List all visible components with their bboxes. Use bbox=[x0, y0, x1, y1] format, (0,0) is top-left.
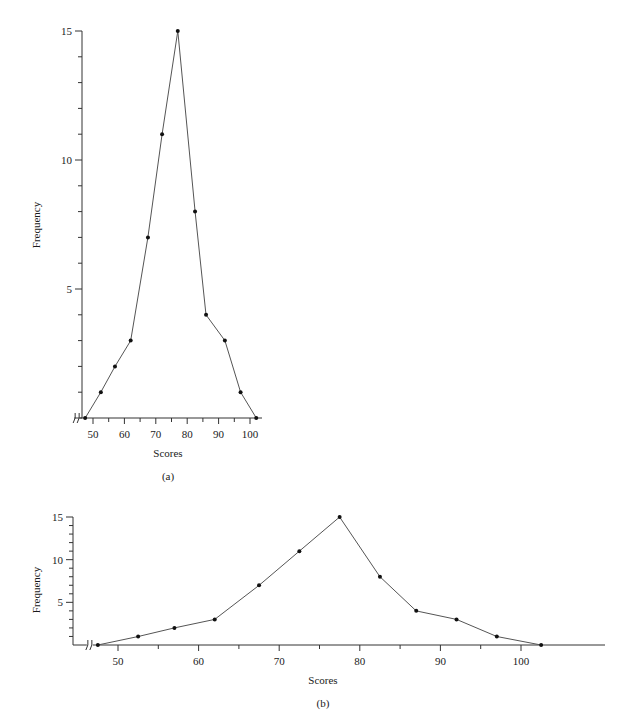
data-point-marker bbox=[136, 634, 140, 638]
data-point-marker bbox=[146, 235, 150, 239]
data-point-marker bbox=[83, 416, 87, 420]
chart-b-y-axis-title: Frequency bbox=[30, 566, 42, 613]
x-tick-label: 90 bbox=[213, 428, 225, 440]
x-tick-label: 90 bbox=[435, 655, 447, 667]
x-tick-label: 100 bbox=[242, 428, 259, 440]
x-tick-label: 50 bbox=[113, 655, 125, 667]
chart-b-series bbox=[96, 515, 543, 647]
data-point-marker bbox=[129, 339, 133, 343]
frequency-line bbox=[98, 517, 541, 645]
chart-b-caption: (b) bbox=[317, 697, 330, 710]
data-point-marker bbox=[378, 575, 382, 579]
data-point-marker bbox=[113, 364, 117, 368]
data-point-marker bbox=[297, 549, 301, 553]
y-tick-label: 15 bbox=[61, 25, 73, 37]
data-point-marker bbox=[239, 390, 243, 394]
frequency-polygon-chart-a: 51015 5060708090100 Frequency Scores (a)… bbox=[0, 0, 632, 717]
chart-a-y-axis-title: Frequency bbox=[30, 201, 42, 248]
x-tick-label: 80 bbox=[354, 655, 366, 667]
x-tick-label: 60 bbox=[193, 655, 205, 667]
x-tick-label: 70 bbox=[150, 428, 162, 440]
x-tick-label: 60 bbox=[119, 428, 131, 440]
data-point-marker bbox=[455, 617, 459, 621]
data-point-marker bbox=[338, 515, 342, 519]
y-tick-label: 5 bbox=[58, 596, 64, 608]
chart-b-y-axis: 51015 bbox=[52, 511, 73, 645]
y-tick-label: 10 bbox=[61, 154, 73, 166]
data-point-marker bbox=[213, 617, 217, 621]
data-point-marker bbox=[204, 313, 208, 317]
data-point-marker bbox=[414, 609, 418, 613]
data-point-marker bbox=[176, 29, 180, 33]
x-tick-label: 50 bbox=[88, 428, 100, 440]
data-point-marker bbox=[257, 583, 261, 587]
x-tick-label: 100 bbox=[513, 655, 530, 667]
data-point-marker bbox=[223, 339, 227, 343]
data-point-marker bbox=[539, 643, 543, 647]
chart-a-series bbox=[83, 29, 258, 420]
chart-b-x-axis-title: Scores bbox=[308, 674, 337, 686]
frequency-line bbox=[85, 31, 256, 418]
y-tick-label: 5 bbox=[67, 283, 73, 295]
data-point-marker bbox=[193, 210, 197, 214]
data-point-marker bbox=[99, 390, 103, 394]
chart-b-x-axis: 5060708090100 bbox=[73, 640, 605, 667]
data-point-marker bbox=[172, 626, 176, 630]
chart-a-caption: (a) bbox=[162, 470, 175, 483]
chart-a-x-axis: 5060708090100 bbox=[73, 413, 262, 440]
x-tick-label: 70 bbox=[274, 655, 286, 667]
data-point-marker bbox=[96, 643, 100, 647]
data-point-marker bbox=[160, 132, 164, 136]
x-tick-label: 80 bbox=[182, 428, 194, 440]
y-tick-label: 15 bbox=[52, 511, 64, 523]
data-point-marker bbox=[254, 416, 258, 420]
chart-a-x-axis-title: Scores bbox=[153, 447, 182, 459]
data-point-marker bbox=[495, 634, 499, 638]
chart-a-y-axis: 51015 bbox=[61, 25, 82, 418]
y-tick-label: 10 bbox=[52, 554, 64, 566]
